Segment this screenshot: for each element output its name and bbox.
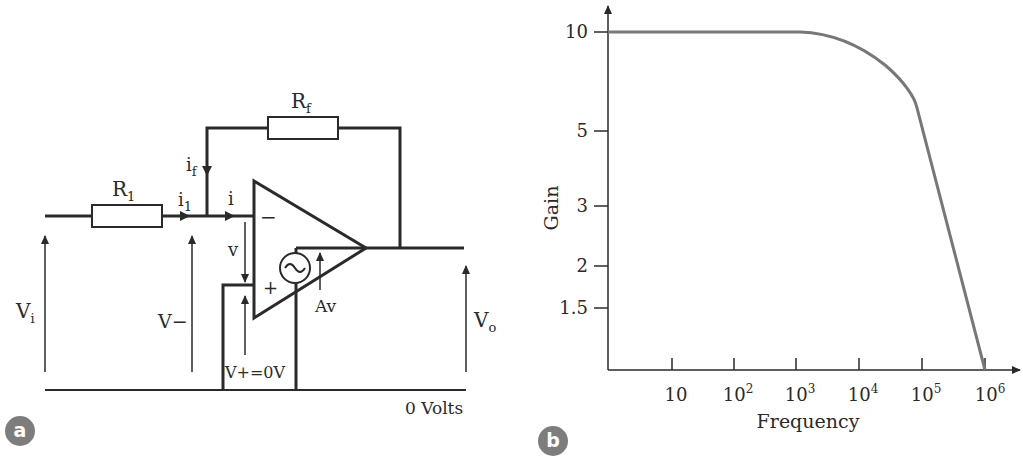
label-minus: −: [260, 205, 277, 229]
y-tick-2: 2: [577, 255, 588, 276]
x-tick-10-3: 103: [785, 382, 816, 405]
resistor-r1: [92, 205, 162, 227]
x-ticks: [672, 358, 985, 370]
y-tick-3: 3: [577, 195, 588, 216]
if-arrow-icon: [202, 166, 212, 176]
x-axis-label: Frequency: [757, 410, 860, 432]
label-plus: +: [263, 277, 278, 298]
panel-a-badge: a: [5, 416, 35, 446]
y-tick-labels: 10 5 3 2 1.5: [559, 21, 588, 318]
resistor-rf: [268, 117, 338, 139]
x-tick-10-5: 105: [911, 382, 942, 405]
y-tick-1-5: 1.5: [559, 297, 588, 318]
y-ticks: [594, 32, 608, 308]
circuit-diagram: [45, 117, 466, 390]
label-v: v: [227, 239, 239, 260]
i-arrow-icon: [225, 211, 235, 221]
y-axis-label: Gain: [540, 186, 562, 231]
gain-chart: 10 5 3 2 1.5 Gain 10 102 103 104 105 106…: [540, 6, 1020, 432]
y-tick-5: 5: [577, 120, 588, 141]
label-vplus: V+=0V: [224, 363, 286, 382]
x-tick-10: 10: [665, 384, 688, 405]
label-vi: Vi: [15, 299, 35, 326]
x-tick-10-2: 102: [723, 382, 754, 405]
label-if: if: [186, 154, 198, 179]
label-0-volts: 0 Volts: [405, 398, 463, 418]
label-r1: R1: [112, 177, 135, 204]
x-tick-10-6: 106: [975, 382, 1006, 405]
feedback-wire-right: [338, 128, 400, 248]
y-tick-10: 10: [565, 21, 588, 42]
x-tick-10-4: 104: [848, 382, 879, 405]
label-vo: Vo: [473, 308, 496, 335]
label-vminus: V−: [157, 310, 188, 332]
gain-curve: [608, 32, 985, 370]
x-tick-labels: 10 102 103 104 105 106: [665, 382, 1006, 405]
panel-b-badge: b: [538, 426, 568, 456]
label-av: Av: [314, 296, 337, 316]
label-rf: Rf: [291, 89, 312, 116]
label-i: i: [228, 188, 234, 209]
figure-canvas: R1 Rf if i1 i − + v Vi V− V+=0V Av Vo 0 …: [0, 0, 1023, 463]
label-i1: i1: [178, 189, 192, 214]
